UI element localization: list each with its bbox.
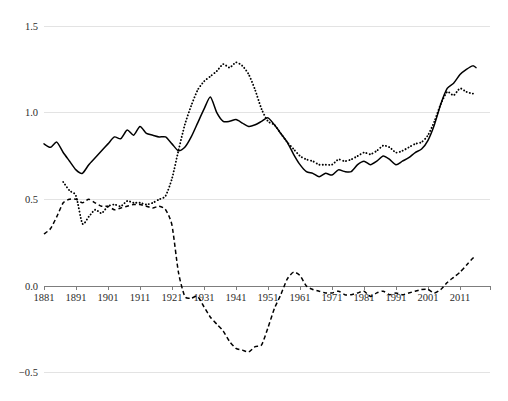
- x-tick-label: 1891: [66, 292, 87, 303]
- x-tick-label: 2011: [450, 292, 471, 303]
- y-axis-tick-labels: 1.51.00.50.0−0.5: [19, 21, 38, 379]
- y-tick-label: 0.5: [25, 194, 38, 205]
- x-tick-label: 1901: [98, 292, 119, 303]
- gridlines: [44, 26, 490, 373]
- y-tick-label: −0.5: [19, 367, 38, 378]
- data-series: [44, 62, 476, 352]
- y-tick-label: 1.0: [25, 107, 38, 118]
- chart-figure: 1.51.00.50.0−0.5 18811891190119111921193…: [0, 0, 508, 401]
- series-dashed: [44, 199, 476, 352]
- x-tick-label: 1941: [226, 292, 247, 303]
- x-tick-label: 1961: [290, 292, 311, 303]
- chart-canvas: 1.51.00.50.0−0.5 18811891190119111921193…: [0, 0, 508, 401]
- y-tick-label: 1.5: [25, 21, 38, 32]
- x-tick-label: 1951: [258, 292, 279, 303]
- x-tick-label: 1921: [162, 292, 183, 303]
- y-tick-label: 0.0: [25, 281, 38, 292]
- x-tick-label: 1931: [194, 292, 215, 303]
- x-axis-tick-labels: 1881189119011911192119311941195119611971…: [34, 292, 471, 303]
- x-tick-label: 1911: [130, 292, 151, 303]
- x-tick-label: 1881: [34, 292, 55, 303]
- series-solid: [44, 66, 476, 177]
